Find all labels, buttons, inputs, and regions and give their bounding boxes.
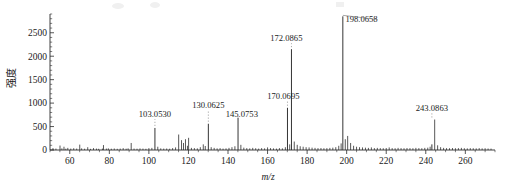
y-tick-label: 2000 [28, 52, 47, 62]
y-tick-label: 1000 [28, 98, 47, 108]
x-tick-label: 180 [300, 156, 315, 166]
peak-label: 145.0753 [226, 109, 258, 119]
scan-artifacts [112, 2, 344, 9]
y-tick-label: 1500 [28, 75, 47, 85]
x-tick-label: 120 [181, 156, 196, 166]
peak-annotations: 103.0530130.0625145.0753170.0695172.0865… [139, 14, 448, 126]
x-tick-label: 60 [65, 156, 75, 166]
peak-label: 170.0695 [267, 91, 299, 101]
axis-tick-labels: 0500100015002000250060801001201401601802… [28, 28, 473, 166]
peak-label: 103.0530 [139, 109, 171, 119]
peak-label: 172.0865 [270, 33, 302, 43]
x-tick-label: 260 [458, 156, 473, 166]
x-tick-label: 220 [379, 156, 394, 166]
mass-spectrum-figure: 0500100015002000250060801001201401601802… [0, 0, 506, 191]
x-tick-label: 200 [340, 156, 355, 166]
y-tick-label: 500 [33, 122, 48, 132]
y-tick-label: 2500 [28, 28, 47, 38]
y-axis-title: 强度 [5, 68, 17, 88]
peak-label: 130.0625 [192, 100, 224, 110]
peak-label: 243.0863 [416, 103, 448, 113]
x-tick-label: 140 [221, 156, 236, 166]
x-tick-label: 160 [260, 156, 275, 166]
x-tick-label: 100 [142, 156, 157, 166]
x-tick-label: 240 [419, 156, 434, 166]
y-tick-label: 0 [42, 145, 47, 155]
x-axis-title: m/z [261, 172, 275, 182]
x-tick-label: 80 [105, 156, 115, 166]
spectrum-plot: 0500100015002000250060801001201401601802… [0, 0, 506, 191]
